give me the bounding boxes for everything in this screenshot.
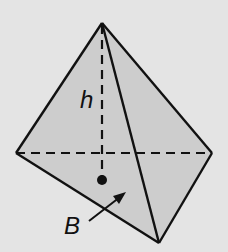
height-label: h xyxy=(80,88,93,112)
pyramid-diagram: h B xyxy=(0,0,228,252)
pyramid-silhouette xyxy=(16,23,212,243)
pyramid-figure xyxy=(0,0,228,252)
base-label: B xyxy=(64,214,80,238)
base-center-point xyxy=(97,175,107,185)
